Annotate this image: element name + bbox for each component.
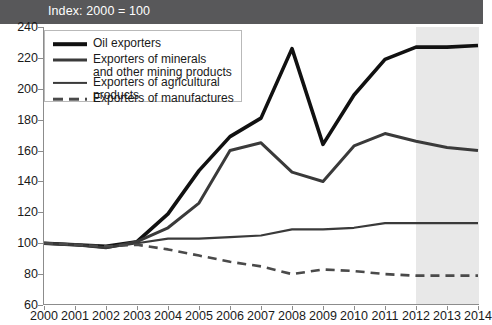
legend-item-label: Exporters of manufactures [93,92,234,105]
x-axis-tick-label: 2012 [402,309,430,323]
x-axis-tick-label: 2014 [464,309,492,323]
x-axis-tick-label: 2011 [372,309,399,323]
x-axis-tick-label: 2000 [30,309,58,323]
x-axis-labels: 2000200120022003200420052006200720082009… [43,306,479,325]
x-axis-tick-label: 2003 [123,309,151,323]
x-axis-line [43,304,479,305]
x-axis-tick-label: 2002 [92,309,120,323]
y-axis-ticks [0,27,43,305]
x-axis-tick-label: 2004 [154,309,182,323]
header-bar: Index: 2000 = 100 [0,0,483,24]
x-axis-tick-label: 2006 [216,309,244,323]
legend-item[interactable]: Exporters of manufactures [53,92,234,106]
legend-line-icon [53,76,87,90]
x-axis-tick-label: 2007 [247,309,275,323]
legend-line-icon [53,53,87,67]
index-note: Index: 2000 = 100 [48,4,150,18]
legend-item[interactable]: Oil exporters [53,37,161,51]
legend-line-icon [53,92,87,106]
series-line [44,134,478,248]
legend-box: Oil exportersExporters of minerals and o… [44,30,242,102]
x-axis-tick-label: 2008 [278,309,306,323]
x-axis-tick-label: 2001 [61,309,89,323]
legend-item-label: Oil exporters [93,37,161,50]
x-axis-tick-label: 2005 [185,309,213,323]
x-axis-tick-label: 2009 [309,309,337,323]
x-axis-tick-label: 2013 [433,309,461,323]
legend-line-icon [53,37,87,51]
x-axis-tick-label: 2010 [340,309,368,323]
